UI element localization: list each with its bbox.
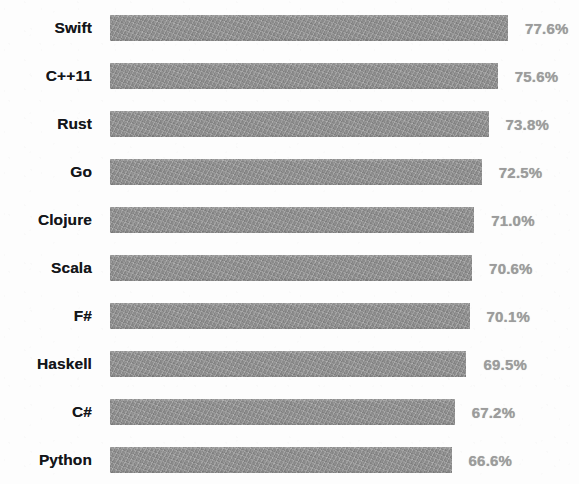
bar-track: 75.6% (110, 63, 579, 89)
bar (110, 351, 466, 377)
category-label: Go (0, 164, 92, 180)
bar-value-label: 70.6% (489, 261, 533, 276)
bar (110, 207, 474, 233)
category-label: Clojure (0, 212, 92, 228)
bar-track: 77.6% (110, 15, 579, 41)
bar-value-label: 66.6% (469, 453, 513, 468)
category-label: F# (0, 308, 92, 324)
bar-value-label: 77.6% (525, 21, 569, 36)
category-label: Haskell (0, 356, 92, 372)
bar-track: 72.5% (110, 159, 579, 185)
bar-track: 73.8% (110, 111, 579, 137)
bar-value-label: 73.8% (506, 117, 550, 132)
bar-value-label: 75.6% (515, 69, 559, 84)
category-label: Swift (0, 20, 92, 36)
bar-row: F#70.1% (0, 303, 579, 329)
bar-row: Clojure71.0% (0, 207, 579, 233)
bar-value-label: 72.5% (499, 165, 543, 180)
bar (110, 447, 452, 473)
category-label: C# (0, 404, 92, 420)
bar-track: 71.0% (110, 207, 579, 233)
bar (110, 255, 472, 281)
bar-row: Python66.6% (0, 447, 579, 473)
bar-row: Haskell69.5% (0, 351, 579, 377)
bar-row: Go72.5% (0, 159, 579, 185)
bar-value-label: 69.5% (483, 357, 527, 372)
bar-value-label: 70.1% (487, 309, 531, 324)
category-label: C++11 (0, 68, 92, 84)
bar-track: 66.6% (110, 447, 579, 473)
bar-row: C++1175.6% (0, 63, 579, 89)
bar-track: 70.6% (110, 255, 579, 281)
bar-track: 67.2% (110, 399, 579, 425)
bar-value-label: 67.2% (472, 405, 516, 420)
bar (110, 111, 489, 137)
bar-row: C#67.2% (0, 399, 579, 425)
category-label: Scala (0, 260, 92, 276)
bar (110, 303, 470, 329)
bar (110, 399, 455, 425)
bar-row: Rust73.8% (0, 111, 579, 137)
bar-track: 70.1% (110, 303, 579, 329)
bar-track: 69.5% (110, 351, 579, 377)
category-label: Python (0, 452, 92, 468)
bar-value-label: 71.0% (491, 213, 535, 228)
category-label: Rust (0, 116, 92, 132)
bar-chart: Swift77.6%C++1175.6%Rust73.8%Go72.5%Cloj… (0, 0, 579, 484)
bar (110, 15, 508, 41)
bar-row: Scala70.6% (0, 255, 579, 281)
bar-row: Swift77.6% (0, 15, 579, 41)
bar (110, 159, 482, 185)
bar (110, 63, 498, 89)
